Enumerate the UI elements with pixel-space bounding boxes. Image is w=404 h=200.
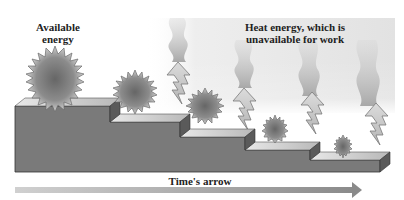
step-top-4	[245, 142, 320, 150]
heat-label-line-1: Heat energy, which is	[230, 21, 360, 33]
available-label-line-2: energy	[28, 33, 88, 45]
available-label-line-1: Available	[28, 21, 88, 33]
energy-sun-icon-4	[262, 115, 288, 143]
available-energy-label: Available energy	[28, 21, 88, 45]
step-top-3	[180, 129, 255, 137]
arrow-head-icon	[352, 182, 362, 198]
time-arrow-label: Time's arrow	[150, 175, 250, 187]
step-top-2	[110, 114, 190, 122]
heat-energy-label: Heat energy, which is unavailable for wo…	[230, 21, 360, 45]
heat-label-line-2: unavailable for work	[230, 33, 360, 45]
